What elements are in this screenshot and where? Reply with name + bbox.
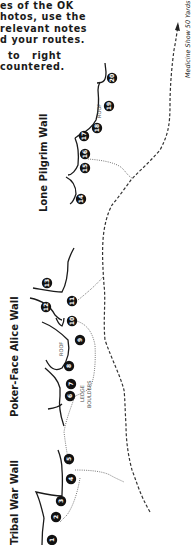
side-trail-lone-pilgrim <box>88 159 132 178</box>
route-marker-4[interactable]: 4 <box>66 474 76 484</box>
wall-outline-poker-face-lower <box>45 368 64 426</box>
svg-text:13: 13 <box>43 279 50 287</box>
route-marker-10[interactable]: 10 <box>67 316 77 326</box>
svg-text:5: 5 <box>65 457 72 461</box>
svg-text:6: 6 <box>66 394 73 398</box>
svg-text:10: 10 <box>68 317 75 325</box>
route-marker-6[interactable]: 6 <box>65 391 75 401</box>
svg-text:15: 15 <box>81 164 88 172</box>
svg-text:16: 16 <box>81 150 88 158</box>
route-marker-20[interactable]: 20 <box>107 73 117 83</box>
svg-text:20: 20 <box>108 74 115 82</box>
roof-label: ROOF <box>96 104 102 118</box>
wall-outline-lone-pilgrim-top <box>97 63 106 83</box>
svg-text:7: 7 <box>67 382 74 386</box>
route-marker-5[interactable]: 5 <box>64 454 74 464</box>
route-marker-14[interactable]: 14 <box>76 194 86 204</box>
route-marker-18[interactable]: 18 <box>92 123 102 133</box>
svg-text:4: 4 <box>67 477 74 481</box>
wall-outline-tribal-war <box>42 518 44 545</box>
ledge-label: LEDGE <box>79 385 85 402</box>
svg-text:18: 18 <box>93 124 100 132</box>
route-marker-11[interactable]: 11 <box>67 296 77 306</box>
svg-text:12: 12 <box>42 303 49 311</box>
svg-text:9: 9 <box>76 338 83 342</box>
route-marker-1[interactable]: 1 <box>47 535 57 545</box>
side-trail-poker-face-upper <box>78 277 103 300</box>
route-marker-7[interactable]: 7 <box>66 379 76 389</box>
route-marker-16[interactable]: 16 <box>80 149 90 159</box>
wall-label-lone-pilgrim: Lone Pilgrim Wall <box>38 113 49 212</box>
route-marker-8[interactable]: 8 <box>64 361 74 371</box>
svg-text:1: 1 <box>48 538 55 542</box>
route-marker-15[interactable]: 15 <box>80 163 90 173</box>
approach-label: Medicine Show 50 Yards <box>184 0 192 78</box>
side-trail-tribal-war <box>75 470 124 482</box>
svg-text:14: 14 <box>77 195 84 203</box>
wall-outline-tribal-war <box>58 450 62 496</box>
wall-label-tribal-war: Tribal War Wall <box>9 460 20 545</box>
svg-text:17: 17 <box>80 132 87 140</box>
wall-outline-lone-pilgrim <box>68 138 78 175</box>
boulders-label: BOULDERS <box>86 381 92 408</box>
route-marker-3[interactable]: 3 <box>56 496 66 506</box>
topo-diagram: Medicine Show 50 Yards ROOF ROOF LEDGE B… <box>0 0 192 545</box>
route-marker-19[interactable]: 19 <box>104 101 114 111</box>
svg-text:3: 3 <box>57 499 64 503</box>
route-marker-12[interactable]: 12 <box>41 302 51 312</box>
svg-text:2: 2 <box>52 515 59 519</box>
route-marker-9[interactable]: 9 <box>75 335 85 345</box>
route-marker-13[interactable]: 13 <box>42 278 52 288</box>
wall-outline-poker-face <box>33 248 74 292</box>
route-marker-17[interactable]: 17 <box>79 131 89 141</box>
wall-outline-poker-face-roof <box>42 322 69 370</box>
svg-text:19: 19 <box>105 102 112 110</box>
arrow-head-icon <box>175 22 180 31</box>
roof-label: ROOF <box>58 342 64 356</box>
wall-outline-lone-pilgrim <box>66 177 76 204</box>
wall-label-poker-face-alice: Poker-Face Alice Wall <box>9 296 20 417</box>
approach-trail <box>103 25 178 512</box>
svg-text:8: 8 <box>65 364 72 368</box>
route-marker-2[interactable]: 2 <box>51 512 61 522</box>
svg-text:11: 11 <box>68 297 75 305</box>
